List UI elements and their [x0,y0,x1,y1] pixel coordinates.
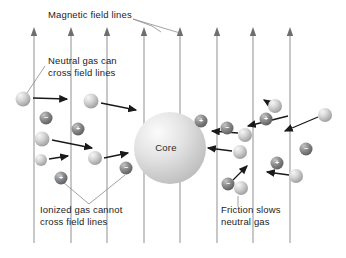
field-line-arrowhead-icon [250,27,256,36]
charge-plus-icon: + [275,159,279,166]
leader-line-ionized-gas [64,175,125,204]
label-neutral-gas-cross-line-2: cross field lines [48,67,116,78]
motion-arrow-right [33,98,67,99]
label-friction-slows-neutral-gas-line-2: neutral gas [221,216,270,227]
label-ionized-gas-cannot-cross-line-1: Ionized gas cannot [40,204,123,215]
neutral-gas-particle [233,145,247,159]
field-line-arrowhead-icon [287,27,293,36]
motion-arrow-right [52,140,92,148]
charge-minus-icon: − [124,164,128,171]
core-label: Core [155,142,176,153]
neutral-gas-particle [35,154,47,166]
magnetic-field-diagram: Core −++−+−−+−+ Magnetic field linesNeut… [0,0,346,258]
label-friction-slows-neutral-gas-line-1: Friction slows [221,204,281,215]
field-line-arrowhead-icon [141,27,147,36]
field-line-arrowhead-icon [177,27,183,36]
field-line-arrowhead-icon [68,27,74,36]
leader-line-magnetic-field [133,19,161,32]
label-neutral-gas-cross-line-1: Neutral gas can [48,55,117,66]
neutral-gas-particle [234,181,248,195]
neutral-gas-particle [268,99,282,113]
leader-line-neutral-gas [27,66,45,93]
motion-arrow-diagonal-up [233,166,247,180]
diagram-canvas: Core −++−+−−+−+ Magnetic field linesNeut… [0,0,346,258]
neutral-gas-particle [289,169,303,183]
motion-arrow-right [49,156,68,159]
neutral-gas-particle [238,128,252,142]
charge-plus-icon: + [76,125,80,132]
motion-arrow-right [104,153,128,158]
neutral-gas-particle [84,94,99,109]
charge-minus-icon: − [304,145,308,152]
field-line-arrowhead-icon [104,27,110,36]
motion-arrow-left [208,148,232,151]
neutral-gas-particle [16,92,31,107]
field-line-arrowhead-icon [214,27,220,36]
charge-plus-icon: + [264,115,268,122]
charge-minus-icon: − [225,124,229,131]
charge-minus-icon: − [226,180,230,187]
motion-arrow-right [101,103,136,110]
charge-plus-icon: + [59,174,63,181]
leader-line-magnetic-field [133,19,180,33]
neutral-gas-particle [318,108,332,122]
charge-minus-icon: − [44,114,48,121]
label-magnetic-field-lines: Magnetic field lines [48,9,132,20]
neutral-gas-particle [35,132,50,147]
motion-arrow-left [267,172,289,175]
charge-plus-icon: + [199,117,203,124]
field-line-arrowhead-icon [31,27,37,36]
label-ionized-gas-cannot-cross-line-2: cross field lines [40,216,108,227]
neutral-gas-particle [88,151,102,165]
